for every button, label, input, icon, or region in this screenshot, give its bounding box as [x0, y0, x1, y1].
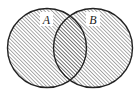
label-a: A — [42, 13, 51, 27]
label-b: B — [89, 13, 97, 27]
label-a-box: A — [40, 12, 53, 27]
venn-diagram: A B — [0, 0, 138, 93]
label-b-box: B — [86, 12, 100, 27]
shaded-union-region — [8, 9, 133, 88]
